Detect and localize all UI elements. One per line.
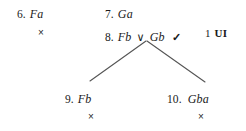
formula-line-10: Gba (188, 92, 209, 106)
tree-node-line-7: 7.Ga (105, 5, 133, 21)
formula-line-9: Fb (78, 92, 92, 106)
line-number-6: 6. (17, 8, 26, 20)
line-number-8: 8. (105, 31, 114, 43)
justification-line-reference: 1 (205, 27, 211, 39)
branch-line-left (90, 41, 146, 81)
closure-mark-line-9: × (88, 112, 94, 122)
formula-line-6: Fa (30, 7, 44, 21)
truth-tree-diagram: 6.Fa × 7.Ga 8.Fb∨Gb✓ 1UI 9.Fb × 10.Gba × (0, 0, 246, 131)
branch-line-right (147, 41, 205, 82)
closure-mark-line-10: × (198, 112, 204, 122)
line-number-10: 10. (167, 93, 182, 105)
tree-node-line-9: 9.Fb (65, 90, 92, 106)
justification-rule-name: UI (215, 27, 228, 39)
tree-node-line-6: 6.Fa (17, 5, 44, 21)
line-number-9: 9. (65, 93, 74, 105)
tree-node-line-10: 10.Gba (167, 90, 209, 106)
formula-line-8-left-disjunct: Fb (118, 30, 132, 44)
line-number-7: 7. (105, 8, 114, 20)
tree-node-line-8: 8.Fb∨Gb✓ (105, 28, 181, 44)
closure-mark-line-6: × (38, 28, 44, 38)
checkmark-icon: ✓ (171, 31, 181, 43)
formula-line-7: Ga (118, 7, 133, 21)
disjunction-operator: ∨ (136, 31, 146, 43)
formula-line-8-right-disjunct: Gb (150, 30, 165, 44)
justification-line-8: 1UI (205, 28, 227, 39)
